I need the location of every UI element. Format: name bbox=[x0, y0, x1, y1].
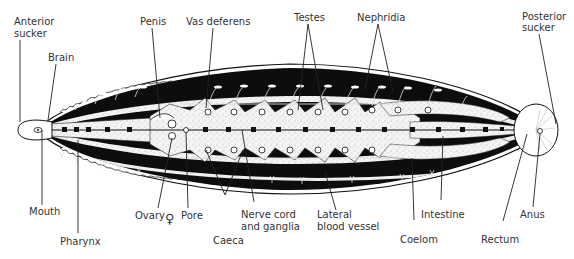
label-mouth: Mouth bbox=[29, 206, 60, 217]
label-anus: Anus bbox=[520, 209, 545, 220]
label-coelom: Coelom bbox=[400, 234, 438, 245]
label-nerve-cord: Nerve cord bbox=[241, 209, 296, 220]
label-vas-deferens: Vas deferens bbox=[186, 16, 250, 27]
label-anterior-sucker-line2: sucker bbox=[14, 28, 48, 39]
label-brain: Brain bbox=[48, 52, 74, 63]
label-anterior-sucker: Anterior bbox=[14, 16, 55, 27]
female-symbol-icon: ♀ bbox=[165, 211, 175, 226]
label-rectum: Rectum bbox=[481, 234, 519, 245]
label-intestine: Intestine bbox=[421, 209, 465, 220]
label-caeca: Caeca bbox=[213, 235, 244, 246]
label-lateral-blood-vessel: Lateral bbox=[317, 209, 352, 220]
leech-anatomy-diagram: Anterior sucker Brain Penis Vas deferens… bbox=[0, 0, 574, 259]
label-posterior-sucker-line2: sucker bbox=[522, 22, 556, 33]
label-pharynx: Pharynx bbox=[60, 236, 101, 247]
label-nerve-cord-line2: and ganglia bbox=[241, 221, 300, 232]
label-pore: Pore bbox=[181, 210, 203, 221]
label-testes: Testes bbox=[293, 12, 325, 23]
anterior-sucker bbox=[18, 120, 52, 140]
label-lateral-blood-vessel-line2: blood vessel bbox=[317, 221, 379, 232]
label-posterior-sucker: Posterior bbox=[522, 11, 567, 22]
label-nephridia: Nephridia bbox=[357, 12, 405, 23]
posterior-sucker bbox=[514, 104, 558, 156]
label-ovary: Ovary bbox=[135, 210, 165, 221]
label-penis: Penis bbox=[140, 16, 166, 27]
